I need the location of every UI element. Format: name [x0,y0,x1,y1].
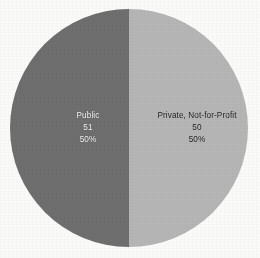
chart-plot-area: Public 51 50% Private, Not-for-Profit 50… [0,0,260,258]
pie-chart: Public 51 50% Private, Not-for-Profit 50… [10,9,248,247]
slice-label-name-public: Public [32,110,144,122]
slice-label-name-private-not-for-profit: Private, Not-for-Profit [143,110,251,122]
slice-label-percent-private-not-for-profit: 50% [143,134,251,146]
pie-slice-label-public: Public 51 50% [32,110,144,147]
pie-slice-label-private-not-for-profit: Private, Not-for-Profit 50 50% [143,110,251,147]
slice-label-percent-public: 50% [32,134,144,146]
slice-label-value-public: 51 [32,122,144,134]
slice-label-value-private-not-for-profit: 50 [143,122,251,134]
pie-chart-figure: Public 51 50% Private, Not-for-Profit 50… [0,0,260,258]
